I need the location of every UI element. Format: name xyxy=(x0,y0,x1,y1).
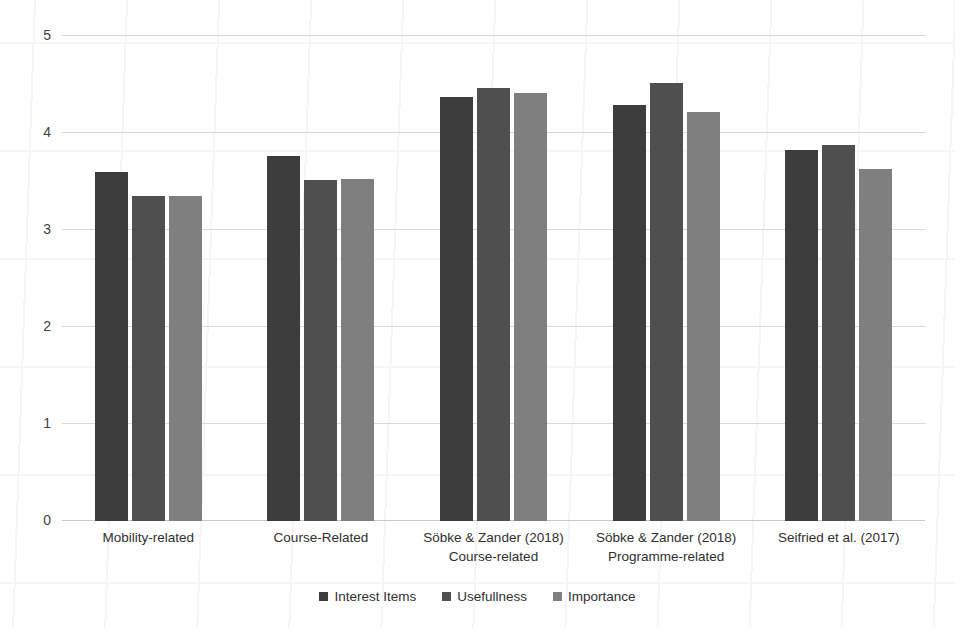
bar xyxy=(785,150,818,521)
legend-item: Usefullness xyxy=(442,589,527,604)
legend-label: Importance xyxy=(568,589,636,604)
chart-legend: Interest ItemsUsefullnessImportance xyxy=(0,589,955,604)
bar xyxy=(95,172,128,521)
x-axis-tick-label: Söbke & Zander (2018)Programme-related xyxy=(596,528,736,566)
y-axis-tick-label: 0 xyxy=(43,512,51,528)
bar xyxy=(477,88,510,521)
x-axis-tick-label: Söbke & Zander (2018)Course-related xyxy=(423,528,563,566)
legend-swatch-icon xyxy=(442,592,451,601)
bar xyxy=(687,112,720,521)
bar xyxy=(514,93,547,521)
bar xyxy=(650,83,683,521)
grouped-bar-chart: 012345 Mobility-relatedCourse-RelatedSöb… xyxy=(0,0,955,628)
legend-swatch-icon xyxy=(319,592,328,601)
x-axis-tick-label: Course-Related xyxy=(274,528,369,547)
bar xyxy=(440,97,473,521)
bar xyxy=(613,105,646,521)
y-axis-tick-label: 1 xyxy=(43,415,51,431)
legend-item: Importance xyxy=(553,589,636,604)
y-axis-tick-label: 2 xyxy=(43,318,51,334)
bar xyxy=(822,145,855,521)
bar xyxy=(341,179,374,521)
legend-label: Usefullness xyxy=(457,589,527,604)
plot-area: 012345 xyxy=(62,36,925,521)
bar xyxy=(859,169,892,521)
bars-layer xyxy=(62,36,925,521)
bar xyxy=(304,180,337,521)
y-axis-tick-label: 3 xyxy=(43,221,51,237)
bar xyxy=(169,196,202,521)
y-axis-tick-label: 5 xyxy=(43,27,51,43)
legend-item: Interest Items xyxy=(319,589,416,604)
bar xyxy=(267,156,300,521)
bar xyxy=(132,196,165,521)
x-axis-tick-label: Seifried et al. (2017) xyxy=(778,528,900,547)
legend-label: Interest Items xyxy=(334,589,416,604)
x-axis-tick-label: Mobility-related xyxy=(103,528,195,547)
y-axis-tick-label: 4 xyxy=(43,124,51,140)
x-axis-labels: Mobility-relatedCourse-RelatedSöbke & Za… xyxy=(62,528,925,580)
legend-swatch-icon xyxy=(553,592,562,601)
